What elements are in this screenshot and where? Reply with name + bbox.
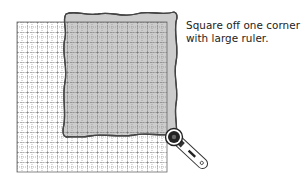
rotary-cutter-icon: [166, 129, 210, 171]
caption-line-2: with large ruler.: [186, 32, 300, 45]
caption-line-1: Square off one corner: [186, 19, 300, 32]
instruction-caption: Square off one corner with large ruler.: [186, 19, 300, 45]
cutting-mat-grid: [17, 22, 167, 172]
